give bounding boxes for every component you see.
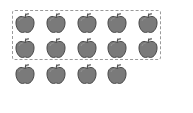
apple-icon-loose	[45, 63, 67, 85]
apple-icon-boxed	[14, 12, 36, 34]
apple-icon-loose	[106, 63, 128, 85]
apple-icon-loose	[76, 63, 98, 85]
apple-icon-boxed	[45, 37, 67, 59]
apple-icon-boxed	[137, 37, 159, 59]
apple-icon-boxed	[137, 12, 159, 34]
apple-icon-boxed	[45, 12, 67, 34]
apple-icon-boxed	[76, 37, 98, 59]
apple-icon-boxed	[106, 37, 128, 59]
apple-icon-boxed	[106, 12, 128, 34]
apple-icon-boxed	[14, 37, 36, 59]
apple-icon-boxed	[76, 12, 98, 34]
apple-icon-loose	[14, 63, 36, 85]
